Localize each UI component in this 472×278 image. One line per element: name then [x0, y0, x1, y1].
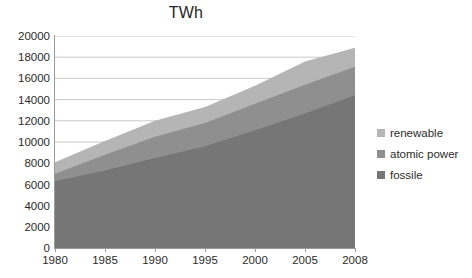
y-tick-label: 2000 [2, 222, 50, 233]
y-tick-label: 4000 [2, 201, 50, 212]
legend-swatch-icon [377, 150, 385, 158]
x-tick-label: 1990 [132, 254, 178, 266]
legend-item-fossile: fossile [377, 166, 472, 184]
x-tick-label: 2000 [232, 254, 278, 266]
y-tick-label: 18000 [2, 52, 50, 63]
y-axis-tick-labels: 20000 18000 16000 14000 12000 10000 8000… [0, 0, 50, 278]
legend-label: fossile [390, 169, 423, 181]
chart-legend: renewable atomic power fossile [377, 124, 472, 187]
y-tick-label: 8000 [2, 158, 50, 169]
y-axis-line [54, 35, 55, 249]
x-tick-label: 1985 [82, 254, 128, 266]
x-tick-label: 1980 [32, 254, 78, 266]
x-tick-label: 2005 [282, 254, 328, 266]
legend-label: renewable [390, 127, 443, 139]
y-tick-label: 12000 [2, 116, 50, 127]
y-tick-label: 6000 [2, 180, 50, 191]
stacked-area-chart: TWh 20000 18000 16000 14000 12000 10000 … [0, 0, 472, 278]
legend-swatch-icon [377, 129, 385, 137]
y-tick-label: 0 [2, 243, 50, 254]
plot-area [55, 36, 355, 248]
x-tick-label: 1995 [182, 254, 228, 266]
y-tick-label: 14000 [2, 95, 50, 106]
x-tick-label: 2008 [332, 254, 378, 266]
y-tick-label: 16000 [2, 73, 50, 84]
legend-item-atomic-power: atomic power [377, 145, 472, 163]
y-tick-label: 10000 [2, 137, 50, 148]
chart-title: TWh [0, 4, 372, 22]
legend-label: atomic power [390, 148, 458, 160]
y-tick-label: 20000 [2, 31, 50, 42]
area-series-group [55, 48, 355, 248]
legend-swatch-icon [377, 171, 385, 179]
legend-item-renewable: renewable [377, 124, 472, 142]
plot-svg [55, 36, 355, 248]
